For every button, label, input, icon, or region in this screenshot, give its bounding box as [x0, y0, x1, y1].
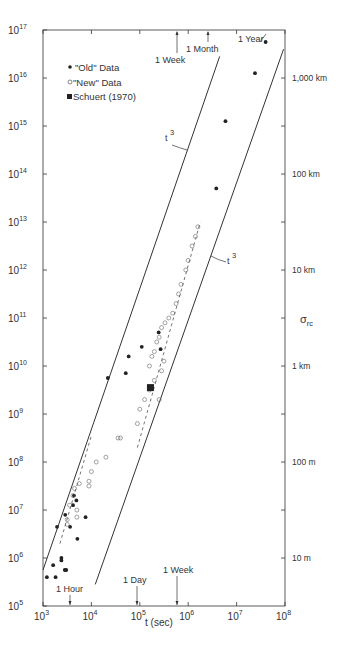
reference-lines: [43, 49, 284, 584]
new-data-point: [167, 316, 171, 320]
new-data-point: [135, 422, 139, 426]
x-tick-exponent: 7: [239, 609, 243, 616]
y-tick-label: 106: [8, 551, 23, 564]
old-data-point: [74, 499, 78, 503]
arrow-up-icon: [176, 31, 179, 35]
bottom-annotation-label: 1 Day: [123, 575, 147, 585]
y-tick-label: 105: [8, 599, 23, 612]
new-data-point: [152, 378, 156, 382]
x-tick-label: 107: [228, 609, 243, 622]
y-tick-exponent: 14: [19, 167, 27, 174]
x-tick-label: 104: [82, 609, 97, 622]
old-data-point: [224, 119, 228, 123]
new-data-point: [157, 335, 161, 339]
t3-line: [43, 56, 220, 570]
y-tick-label: 108: [8, 455, 23, 468]
y-tick-label: 1015: [8, 119, 27, 132]
new-data-point: [72, 486, 76, 490]
legend-new-marker: [68, 80, 72, 84]
y-tick-label: 1014: [8, 167, 27, 180]
new-data-point: [184, 268, 188, 272]
arrow-up-icon: [207, 31, 210, 35]
arrow-down-icon: [136, 601, 139, 605]
y-tick-label: 109: [8, 407, 23, 420]
t3-right-t: t: [227, 256, 230, 266]
old-data-point: [45, 575, 49, 579]
old-data-point: [55, 525, 59, 529]
new-data-point: [94, 460, 98, 464]
x-tick-exponent: 3: [45, 609, 49, 616]
new-data-point: [155, 340, 159, 344]
old-data-point: [140, 345, 144, 349]
x-tick-label: 105: [131, 609, 146, 622]
y-tick-label: 1012: [8, 263, 27, 276]
y-tick-label: 1017: [8, 23, 27, 36]
new-data-point: [138, 407, 142, 411]
right-axis-sub: rc: [307, 319, 313, 328]
right-tick-label: 100 m: [292, 457, 316, 467]
x-tick-label: 108: [276, 609, 291, 622]
old-data-point: [106, 376, 110, 380]
y-tick-label: 1016: [8, 71, 27, 84]
old-data-point: [124, 371, 128, 375]
new-data-point: [147, 364, 151, 368]
right-tick-label: 10 km: [292, 265, 315, 275]
y-tick-exponent: 10: [19, 359, 27, 366]
legend-schuert-label: Schuert (1970): [73, 91, 136, 102]
right-tick-label: 1,000 km: [292, 73, 327, 83]
legend-schuert-marker: [67, 94, 72, 99]
x-tick-exponent: 4: [94, 609, 98, 616]
x-tick-exponent: 8: [287, 609, 291, 616]
top-annotation-label: 1 Year: [238, 34, 264, 44]
new-data-point: [75, 508, 79, 512]
legend-old-label: "Old" Data: [75, 62, 120, 73]
legend: "Old" Data "New" Data Schuert (1970): [67, 62, 136, 102]
old-data-point: [157, 331, 161, 335]
old-data-point: [64, 568, 68, 572]
old-data-point: [253, 71, 257, 75]
new-data-point: [160, 369, 164, 373]
old-data-point: [84, 515, 88, 519]
right-tick-label: 10 m: [292, 553, 311, 563]
t3-right-exp: 3: [232, 251, 236, 260]
t3-line: [95, 49, 283, 584]
legend-old-marker: [68, 65, 72, 69]
old-data-point: [264, 40, 268, 44]
old-data-point: [63, 513, 67, 517]
y-tick-label: 1013: [8, 215, 27, 228]
new-data-point: [177, 292, 181, 296]
new-data-point: [77, 482, 81, 486]
right-axis-title: σrc: [300, 313, 313, 328]
schuert-data-point: [147, 384, 154, 391]
x-axis-title: t (sec): [145, 617, 173, 628]
old-data-point: [214, 187, 218, 191]
top-annotation-label: 1 Month: [186, 44, 219, 54]
y-tick-exponent: 7: [19, 503, 23, 510]
legend-new-label: "New" Data: [73, 77, 122, 88]
y-tick-exponent: 12: [19, 263, 27, 270]
top-annotation-label: 1 Week: [155, 55, 186, 65]
y-tick-exponent: 17: [19, 23, 27, 30]
bottom-annotation-label: 1 Hour: [56, 584, 83, 594]
new-data-point: [174, 302, 178, 306]
new-data-point: [89, 470, 93, 474]
new-data-point: [87, 484, 91, 488]
new-data-point: [160, 326, 164, 330]
t3-left-exp: 3: [170, 128, 174, 137]
plot-border: [43, 30, 285, 606]
y-tick-exponent: 8: [19, 455, 23, 462]
new-data-point: [162, 359, 166, 363]
y-tick-label: 1010: [8, 359, 27, 372]
new-data-point: [152, 350, 156, 354]
t3-left-t: t: [165, 133, 168, 143]
new-data-point: [143, 398, 147, 402]
old-data-point: [127, 355, 131, 359]
t3-label-left: t 3: [165, 128, 187, 150]
y-tick-exponent: 13: [19, 215, 27, 222]
y-tick-exponent: 5: [19, 599, 23, 606]
new-data-point: [68, 503, 72, 507]
old-data-point: [159, 347, 163, 351]
data-points: [45, 40, 268, 579]
old-data-point: [51, 563, 55, 567]
y-axis: 1051061071081091010101110121013101410151…: [8, 23, 47, 612]
